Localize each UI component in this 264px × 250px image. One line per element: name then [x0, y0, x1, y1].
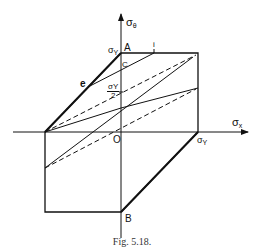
sigma-y-right-label: σY — [197, 136, 207, 146]
sigma-x-label: σx — [232, 117, 242, 129]
half-sigma-y-label: σY 2 — [107, 83, 119, 100]
y-subscript: Y — [114, 49, 119, 56]
sigma-symbol: σ — [126, 16, 133, 28]
point-O-label: O — [113, 135, 121, 145]
point-e-label: e — [80, 79, 86, 89]
sigma-symbol: σ — [232, 116, 239, 128]
point-B-label: B — [125, 214, 132, 224]
point-C-label: C — [122, 61, 128, 69]
sigma-y-top-label: σY — [108, 46, 118, 56]
point-i-label: i — [153, 41, 155, 49]
theta-subscript: θ — [133, 22, 137, 29]
sigma-theta-label: σθ — [126, 17, 137, 29]
line-axis-to-right — [121, 88, 198, 108]
line-long-diagonal — [45, 57, 193, 168]
yield-hexagon-diagram — [0, 0, 264, 250]
x-subscript: x — [239, 122, 243, 129]
point-A-label: A — [124, 43, 131, 53]
y-subscript: Y — [203, 139, 208, 146]
lower-right-diagonal — [121, 132, 198, 212]
fraction-denominator: 2 — [107, 92, 119, 100]
figure-caption: Fig. 5.18. — [0, 236, 264, 247]
